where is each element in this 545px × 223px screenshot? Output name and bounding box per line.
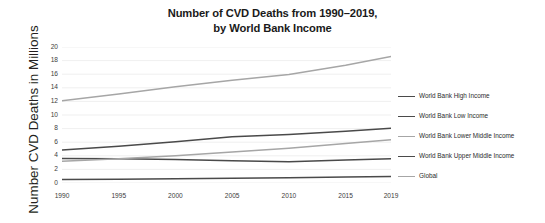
x-axis-tick-2015: 2015	[326, 193, 366, 200]
chart-title: Number of CVD Deaths from 1990–2019, by …	[105, 6, 440, 36]
cvd-deaths-line-chart: Number of CVD Deaths from 1990–2019, by …	[0, 0, 545, 223]
chart-title-line-1: Number of CVD Deaths from 1990–2019,	[168, 7, 378, 19]
y-axis-tick-18: 18	[36, 57, 58, 64]
chart-title-line-2: by World Bank Income	[105, 21, 440, 36]
y-axis-tick-6: 6	[36, 139, 58, 146]
legend-swatch-icon	[398, 116, 415, 117]
x-axis-tick-1995: 1995	[99, 193, 139, 200]
legend-swatch-icon	[398, 136, 415, 137]
legend-item-world-bank-upper-middle-income[interactable]: World Bank Upper Middle Income	[398, 146, 545, 166]
legend-swatch-icon	[398, 96, 415, 97]
y-axis-tick-4: 4	[36, 152, 58, 159]
legend-item-label: World Bank Lower Middle Income	[419, 133, 514, 139]
y-axis-tick-14: 14	[36, 84, 58, 91]
legend-item-label: Global	[419, 173, 437, 179]
y-axis-tick-2: 2	[36, 166, 58, 173]
y-axis-tick-8: 8	[36, 125, 58, 132]
chart-legend: World Bank High IncomeWorld Bank Low Inc…	[398, 86, 545, 186]
legend-item-world-bank-lower-middle-income[interactable]: World Bank Lower Middle Income	[398, 126, 545, 146]
x-axis-tick-2000: 2000	[155, 193, 195, 200]
legend-swatch-icon	[398, 176, 415, 177]
legend-item-world-bank-high-income[interactable]: World Bank High Income	[398, 86, 545, 106]
legend-item-world-bank-low-income[interactable]: World Bank Low Income	[398, 106, 545, 126]
x-axis-tick-2005: 2005	[212, 193, 252, 200]
legend-swatch-icon	[398, 156, 415, 157]
legend-item-global[interactable]: Global	[398, 166, 545, 186]
x-axis-tick-2019: 2019	[371, 193, 411, 200]
y-axis-tick-10: 10	[36, 112, 58, 119]
y-axis-tick-20: 20	[36, 44, 58, 51]
legend-item-label: World Bank Low Income	[419, 113, 488, 119]
series-line-world-bank-low-income	[62, 177, 391, 180]
plot-svg	[62, 47, 391, 183]
legend-item-label: World Bank High Income	[419, 93, 490, 99]
x-axis-tick-2010: 2010	[269, 193, 309, 200]
series-line-world-bank-upper-middle-income	[62, 128, 391, 150]
plot-area	[62, 47, 391, 183]
x-axis-tick-1990: 1990	[42, 193, 82, 200]
y-axis-tick-0: 0	[36, 180, 58, 187]
y-axis-tick-12: 12	[36, 98, 58, 105]
y-axis-tick-16: 16	[36, 71, 58, 78]
legend-item-label: World Bank Upper Middle Income	[419, 153, 514, 159]
series-line-global	[62, 57, 391, 101]
